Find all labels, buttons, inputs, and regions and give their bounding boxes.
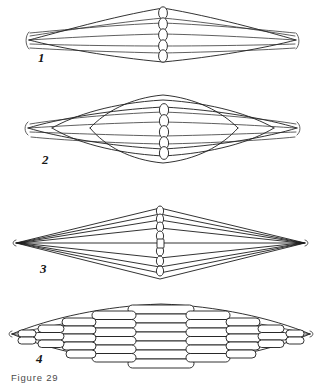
figure-label-1: 1 — [38, 50, 45, 65]
figure-panel-1: 1 — [26, 7, 299, 65]
figure-caption: Figure 29 — [11, 372, 58, 383]
figure-panel-2: 2 — [25, 95, 300, 167]
figure-panel-3: 3 — [13, 206, 308, 279]
central-ring-chain-1 — [159, 7, 168, 62]
figure-label-4: 4 — [35, 351, 43, 366]
figure-plate: 1 — [0, 0, 321, 390]
figure-panel-4: 4 — [9, 304, 313, 368]
figure-plate-svg: 1 — [0, 0, 321, 390]
central-ring-chain-2 — [159, 104, 168, 160]
figure-label-3: 3 — [39, 261, 47, 276]
capsule-grid — [18, 305, 304, 368]
figure-label-2: 2 — [41, 152, 49, 167]
